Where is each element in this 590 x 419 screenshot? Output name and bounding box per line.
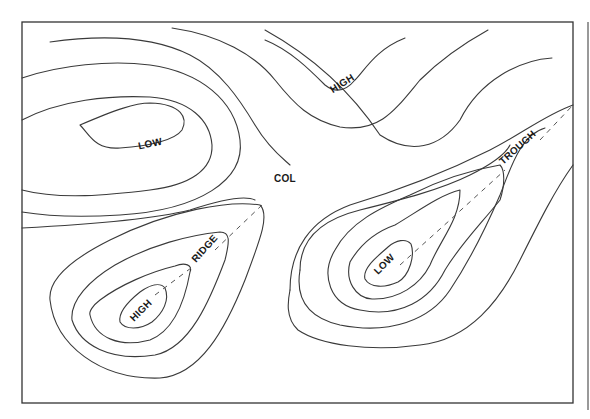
low-left-label: LOW xyxy=(137,136,163,152)
high-top-label: HIGH xyxy=(328,72,356,95)
contour-diagram: LOW HIGH COL TROUGH LOW RIDGE HIGH xyxy=(0,0,590,419)
high-bottom-label: HIGH xyxy=(128,297,154,323)
upper-left-low-contours xyxy=(22,38,290,216)
lower-left-high-contours xyxy=(22,198,264,378)
col-label: COL xyxy=(274,173,296,184)
trough-label: TROUGH xyxy=(497,128,538,166)
low-right-label: LOW xyxy=(372,251,397,276)
trough-axis-line xyxy=(400,105,573,265)
ridge-label: RIDGE xyxy=(189,232,219,264)
